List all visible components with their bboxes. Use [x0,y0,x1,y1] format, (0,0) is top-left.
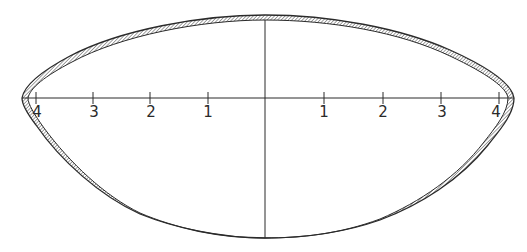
tick-label-right-4: 4 [491,105,501,120]
tick-label-left-1: 1 [203,105,213,120]
tick-label-left-3: 3 [89,105,99,120]
inner-outline [28,20,508,238]
tick-label-right-1: 1 [319,105,329,120]
diagram-canvas [0,0,527,252]
tick-label-left-2: 2 [146,105,156,120]
tick-label-right-3: 3 [437,105,447,120]
lens-section-diagram: 4 3 2 1 1 2 3 4 [0,0,527,252]
tick-label-left-4: 4 [32,105,42,120]
tick-label-right-2: 2 [378,105,388,120]
hatched-band [22,15,514,238]
